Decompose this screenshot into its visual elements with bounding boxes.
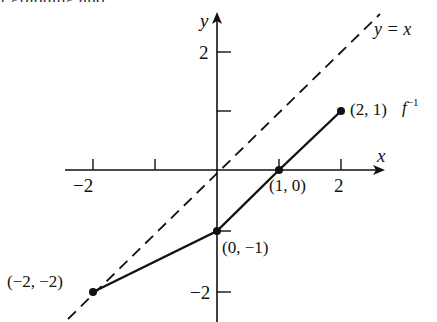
x-axis-label: x (377, 146, 385, 165)
tick-label-y-neg2: −2 (190, 283, 210, 302)
figure: f graphing and (0, 0, 437, 322)
point-label-neg2-neg2: (−2, −2) (7, 273, 63, 290)
y-axis-label: y (200, 11, 208, 30)
point-label-0-neg1: (0, −1) (222, 239, 268, 256)
point-label-2-1: (2, 1) (350, 101, 387, 118)
point-label-1-0: (1, 0) (269, 177, 306, 194)
function-label-f: f−1 (402, 97, 418, 116)
function-inverse-exponent: −1 (407, 96, 419, 108)
tick-label-x-2: 2 (334, 176, 344, 195)
tick-label-y-2: 2 (199, 43, 209, 62)
tick-label-x-neg2: −2 (73, 176, 93, 195)
identity-line-label: y = x (374, 20, 411, 38)
plot-canvas (0, 0, 437, 322)
identity-line (68, 14, 380, 319)
